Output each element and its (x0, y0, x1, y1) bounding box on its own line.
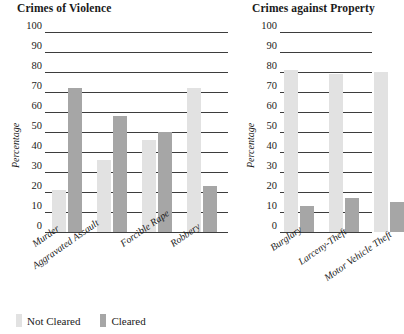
chart-legend: Not ClearedCleared (16, 314, 160, 327)
bars-layer (236, 32, 372, 232)
legend-label: Cleared (111, 315, 145, 327)
plot-area: 0102030405060708090100 BurglaryLarceny-T… (236, 0, 372, 260)
bars-layer (0, 32, 236, 232)
bar-robbery-cleared (203, 186, 217, 232)
bar-larceny-theft-not-cleared (329, 74, 343, 232)
legend-swatch-icon (100, 314, 106, 327)
y-axis-tick-label: 100 (16, 21, 42, 32)
legend-entry-not-cleared: Not Cleared (16, 314, 80, 327)
chart-panel-crimes-of-violence: Crimes of Violence Percentage 0102030405… (0, 0, 236, 334)
bar-aggravated-assault-not-cleared (97, 160, 111, 232)
bar-robbery-not-cleared (187, 88, 201, 232)
bar-aggravated-assault-cleared (113, 116, 127, 232)
bar-burglary-not-cleared (284, 70, 298, 232)
legend-label: Not Cleared (27, 315, 80, 327)
plot-area: 0102030405060708090100 MurderAggravated … (0, 0, 236, 260)
y-axis-tick-label: 100 (251, 21, 277, 32)
bar-burglary-cleared (300, 206, 314, 232)
legend-swatch-icon (16, 314, 22, 327)
bar-motor-vehicle-theft-not-cleared (374, 72, 388, 232)
bar-motor-vehicle-theft-cleared (390, 202, 404, 232)
bar-larceny-theft-cleared (345, 198, 359, 232)
chart-panel-crimes-against-property: Crimes against Property Percentage 01020… (236, 0, 372, 334)
bar-murder-cleared (68, 88, 82, 232)
legend-entry-cleared: Cleared (100, 314, 145, 327)
